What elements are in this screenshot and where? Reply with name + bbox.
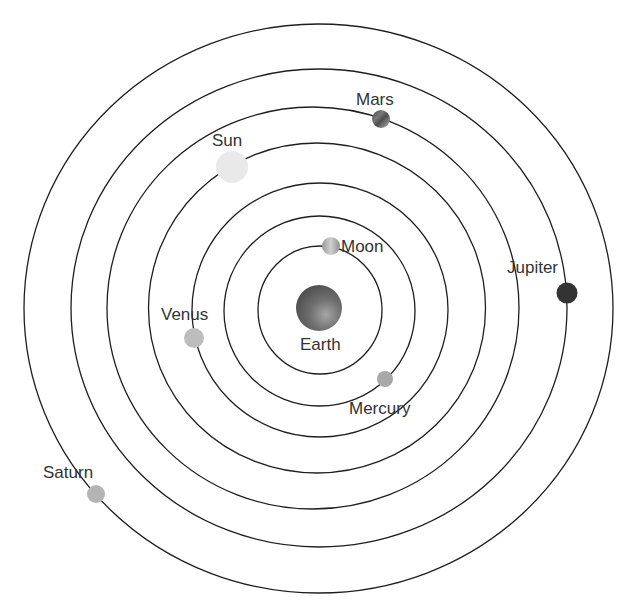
mercury-label: Mercury [349,399,411,418]
earth-label: Earth [300,335,341,354]
jupiter-label: Jupiter [507,258,558,277]
sun-body [216,151,248,183]
mars-label: Mars [356,90,394,109]
sun-label: Sun [212,131,242,150]
geocentric-diagram: EarthMoonMercuryVenusSunMarsJupiterSatur… [0,0,637,613]
mercury-body [377,371,393,387]
moon-body [322,237,340,255]
saturn-label: Saturn [43,463,93,482]
venus-body [184,328,204,348]
saturn-body [87,485,105,503]
jupiter-body [557,283,578,304]
earth-body [296,285,342,331]
moon-label: Moon [341,237,384,256]
mars-body [372,110,390,128]
labels: EarthMoonMercuryVenusSunMarsJupiterSatur… [43,90,558,482]
venus-label: Venus [161,305,208,324]
